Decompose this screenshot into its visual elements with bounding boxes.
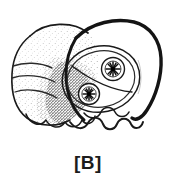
lower-starburst-circle bbox=[79, 84, 100, 105]
upper-starburst-core bbox=[111, 67, 116, 72]
lower-starburst-core bbox=[87, 92, 91, 96]
illustration-area bbox=[0, 0, 176, 148]
figure-panel: [B] bbox=[0, 0, 176, 185]
figure-caption: [B] bbox=[0, 152, 176, 174]
stippled-embryo-head-line-drawing bbox=[0, 0, 176, 148]
upper-starburst-circle bbox=[102, 58, 125, 81]
